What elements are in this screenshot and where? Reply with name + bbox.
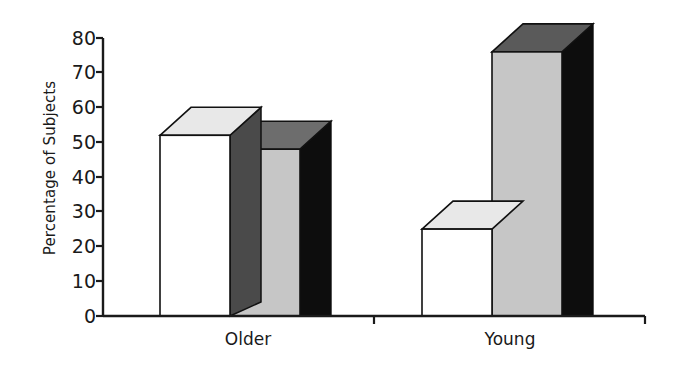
bar-side-face (230, 107, 261, 316)
bar-chart-figure: Percentage of Subjects 80 70 60 50 40 30… (0, 0, 686, 373)
bar-front-face (160, 135, 230, 316)
bar-side-face (562, 24, 593, 316)
bar-front-face (492, 52, 562, 316)
bar-side-face (300, 121, 331, 316)
bar-older-series-1 (160, 107, 261, 316)
bar-front-face (422, 229, 492, 316)
bar-young-series-2 (492, 24, 593, 316)
plot-area (0, 0, 686, 373)
